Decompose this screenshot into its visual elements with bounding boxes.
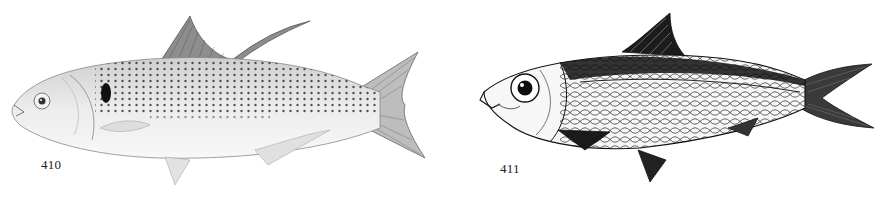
figure-411: 411 [470,0,886,202]
pelvic-fin [165,157,190,185]
dorsal-fin [622,13,685,56]
dorsal-fin [160,16,310,64]
figure-410: 410 [0,0,440,202]
figure-number: 410 [41,157,61,173]
shoulder-spot [101,83,111,103]
figure-number: 411 [500,161,520,177]
fish-illustration-411 [470,0,886,202]
fish-illustration-410 [0,0,440,202]
pelvic-fin [638,150,666,182]
caudal-fin [800,64,874,128]
